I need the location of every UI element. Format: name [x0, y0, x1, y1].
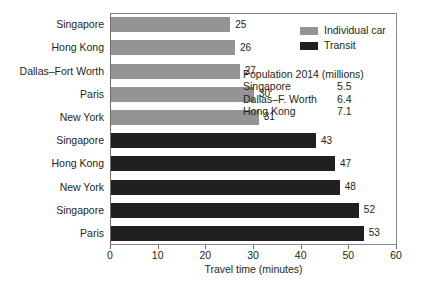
population-row: Dallas–F. Worth6.4 — [243, 93, 364, 105]
x-axis-tick-label: 40 — [295, 250, 307, 261]
x-axis-tick-label: 50 — [342, 250, 354, 261]
chart-legend: Individual car Transit — [300, 24, 386, 54]
x-axis-tick-label: 0 — [107, 250, 113, 261]
legend-item-transit: Transit — [300, 39, 386, 52]
bar-transit — [111, 180, 340, 195]
x-axis-tick-label: 60 — [390, 250, 402, 261]
population-value: 6.4 — [337, 93, 352, 105]
legend-item-individual-car: Individual car — [300, 24, 386, 37]
category-label: Hong Kong — [0, 158, 104, 169]
bar-chart-figure: SingaporeHong KongDallas–Fort WorthParis… — [0, 0, 422, 282]
category-label: Paris — [0, 89, 104, 100]
bar-car — [111, 110, 259, 125]
category-label: Hong Kong — [0, 42, 104, 53]
population-row: Hong Kong7.1 — [243, 105, 364, 117]
bar-car — [111, 64, 240, 79]
bar-car — [111, 87, 254, 102]
x-axis-title: Travel time (minutes) — [110, 263, 397, 275]
category-label: Singapore — [0, 205, 104, 216]
bar-transit — [111, 133, 316, 148]
bar-transit — [111, 203, 359, 218]
category-label: New York — [0, 112, 104, 123]
bar-value-label: 43 — [321, 136, 332, 146]
category-label: Dallas–Fort Worth — [0, 66, 104, 77]
bar-value-label: 52 — [364, 205, 375, 215]
x-axis-tick-label: 10 — [152, 250, 164, 261]
population-row: Singapore5.5 — [243, 80, 364, 92]
population-value: 5.5 — [337, 80, 352, 92]
category-axis: SingaporeHong KongDallas–Fort WorthParis… — [0, 13, 104, 245]
population-annotation-title: Population 2014 (millions) — [243, 68, 364, 80]
legend-label-transit: Transit — [324, 40, 356, 51]
x-axis-tick-label: 20 — [199, 250, 211, 261]
legend-swatch-transit — [300, 42, 318, 50]
category-label: New York — [0, 182, 104, 193]
bar-value-label: 53 — [369, 228, 380, 238]
population-annotation: Population 2014 (millions) Singapore5.5 … — [243, 68, 364, 118]
bar-car — [111, 17, 230, 32]
population-city: Hong Kong — [243, 105, 337, 117]
bar-transit — [111, 226, 364, 241]
bar-value-label: 26 — [240, 43, 251, 53]
bar-transit — [111, 156, 335, 171]
population-city: Dallas–F. Worth — [243, 93, 337, 105]
bar-value-label: 25 — [235, 20, 246, 30]
x-axis-tick-label: 30 — [247, 250, 259, 261]
bar-value-label: 47 — [340, 159, 351, 169]
population-city: Singapore — [243, 80, 337, 92]
category-label: Paris — [0, 228, 104, 239]
legend-swatch-individual-car — [300, 27, 318, 35]
population-value: 7.1 — [337, 105, 352, 117]
bar-car — [111, 40, 235, 55]
category-label: Singapore — [0, 135, 104, 146]
bar-value-label: 48 — [345, 182, 356, 192]
legend-label-individual-car: Individual car — [324, 25, 386, 36]
x-axis: 0102030405060 — [110, 245, 397, 265]
category-label: Singapore — [0, 19, 104, 30]
